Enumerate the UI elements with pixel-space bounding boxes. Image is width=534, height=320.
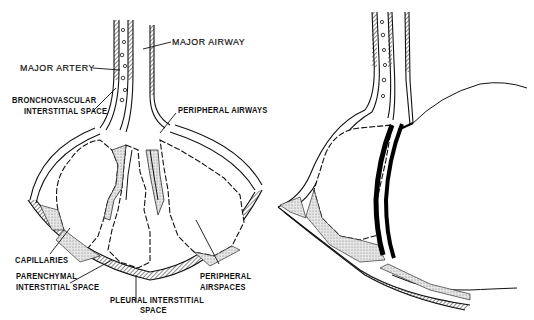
- label-bronchovascular-line1: BRONCHOVASCULAR: [12, 96, 96, 106]
- figure-canvas: MAJOR AIRWAY MAJOR ARTERY BRONCHOVASCULA…: [0, 0, 534, 320]
- label-peripheral-airways: PERIPHERAL AIRWAYS: [178, 106, 268, 116]
- normal-lung-unit: [28, 20, 262, 280]
- label-pleural-line1: PLEURAL INTERSTITIAL: [110, 296, 204, 306]
- label-major-artery: MAJOR ARTERY: [20, 63, 95, 73]
- label-peripheral-airspaces-line2: AIRSPACES: [200, 283, 246, 293]
- label-pleural-line2: SPACE: [140, 306, 167, 316]
- label-parenchymal-line2: INTERSTITIAL SPACE: [16, 283, 99, 293]
- label-peripheral-airspaces-line1: PERIPHERAL: [200, 272, 251, 282]
- label-bronchovascular-line2: INTERSTITIAL SPACE: [24, 107, 107, 117]
- label-capillaries: CAPILLARIES: [15, 256, 68, 266]
- label-parenchymal-line1: PARENCHYMAL: [16, 272, 77, 282]
- abnormal-lung-unit: [278, 12, 527, 310]
- diagram-drawing: [0, 0, 534, 320]
- label-major-airway: MAJOR AIRWAY: [172, 37, 245, 47]
